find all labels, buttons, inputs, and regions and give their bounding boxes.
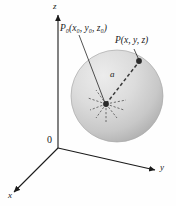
center-point-label: P₀(x₀, y₀, z₀) bbox=[60, 24, 107, 34]
origin-label: 0 bbox=[47, 135, 52, 145]
radius-label: a bbox=[110, 70, 115, 79]
y-axis bbox=[58, 148, 155, 170]
sphere-equation-figure: z y x 0 P₀(x₀, y₀, z₀) P(x, y, z) a bbox=[0, 0, 176, 206]
surface-point-label: P(x, y, z) bbox=[115, 36, 148, 46]
x-axis bbox=[14, 148, 58, 192]
y-axis-label: y bbox=[160, 163, 164, 172]
z-axis-label: z bbox=[53, 2, 57, 11]
sphere-body bbox=[71, 50, 163, 142]
x-axis-label: x bbox=[8, 191, 12, 200]
center-point-marker bbox=[103, 101, 109, 107]
surface-point-marker bbox=[136, 58, 142, 64]
